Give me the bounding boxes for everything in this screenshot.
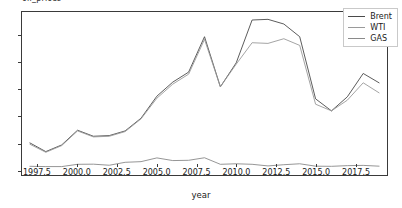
legend-swatch-gas	[348, 38, 365, 39]
y-tick-mark	[18, 35, 21, 36]
legend-swatch-brent	[348, 16, 365, 17]
x-tick-mark	[276, 164, 277, 167]
legend-label: WTI	[370, 23, 385, 32]
plot-area	[21, 11, 388, 176]
y-tick-mark	[18, 171, 21, 172]
x-tick-mark	[356, 164, 357, 167]
chart-title: oil_prices	[22, 0, 352, 4]
x-tick-label: 2015.0	[302, 168, 330, 177]
chart-figure: oil_prices 020406080100 1997.52000.02002…	[0, 0, 402, 208]
legend-label: Brent	[370, 12, 392, 21]
legend-label: GAS	[370, 34, 387, 43]
x-tick-mark	[37, 164, 38, 167]
legend-entry-wti: WTI	[348, 23, 392, 32]
series-lines	[22, 12, 387, 175]
x-tick-label: 2012.5	[262, 168, 290, 177]
x-axis-label: year	[0, 190, 402, 200]
x-tick-label: 2010.0	[222, 168, 250, 177]
x-tick-label: 2017.5	[342, 168, 370, 177]
x-tick-label: 1997.5	[23, 168, 51, 177]
series-line-wti	[30, 39, 379, 153]
chart-legend: BrentWTIGAS	[343, 8, 398, 47]
x-tick-mark	[157, 164, 158, 167]
y-tick-mark	[18, 116, 21, 117]
x-tick-label: 2005.0	[143, 168, 171, 177]
y-tick-mark	[18, 144, 21, 145]
x-tick-mark	[77, 164, 78, 167]
y-tick-mark	[18, 62, 21, 63]
x-tick-mark	[236, 164, 237, 167]
legend-entry-brent: Brent	[348, 12, 392, 21]
series-line-gas	[30, 158, 379, 167]
legend-swatch-wti	[348, 27, 365, 28]
x-tick-mark	[316, 164, 317, 167]
x-tick-label: 2000.0	[63, 168, 91, 177]
x-tick-mark	[197, 164, 198, 167]
x-tick-label: 2007.5	[183, 168, 211, 177]
y-tick-mark	[18, 89, 21, 90]
x-tick-label: 2002.5	[103, 168, 131, 177]
legend-entry-gas: GAS	[348, 34, 392, 43]
x-tick-mark	[117, 164, 118, 167]
